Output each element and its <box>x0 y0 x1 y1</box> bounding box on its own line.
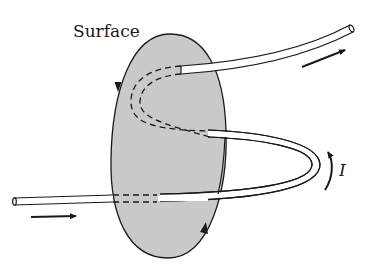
wire-end-cap <box>13 198 17 205</box>
wire-outgoing <box>181 24 355 74</box>
outgoing-current-arrow-icon <box>302 50 345 67</box>
incoming-current-arrow-icon <box>31 216 76 217</box>
ampere-law-surface-diagram: Surface I <box>0 0 368 268</box>
current-I-arrow-icon <box>325 152 332 190</box>
wire-emerging-segment <box>158 196 208 201</box>
wire-incoming <box>13 195 113 205</box>
current-label: I <box>338 160 346 180</box>
surface-label: Surface <box>73 21 140 41</box>
